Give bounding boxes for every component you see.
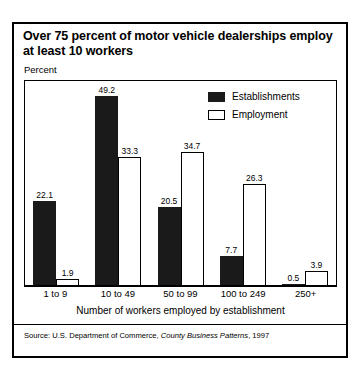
bar-rect [118, 157, 141, 286]
bar-group: 22.11.9 [25, 81, 87, 286]
chart-legend: Establishments Employment [208, 89, 326, 125]
bar-group: 49.233.3 [87, 81, 149, 286]
bar-employment: 34.7 [181, 81, 204, 286]
bar-value-label: 3.9 [310, 260, 322, 270]
source-note: Source: U.S. Department of Commerce, Cou… [24, 331, 340, 341]
bar-rect [33, 201, 56, 286]
bar-employment: 33.3 [118, 81, 141, 286]
x-tick-label: 100 to 249 [212, 288, 275, 299]
filled-square-icon [208, 92, 225, 102]
bar-establishments: 49.2 [95, 81, 118, 286]
x-axis-tick-labels: 1 to 910 to 4950 to 99100 to 249250+ [24, 288, 337, 299]
y-axis-label: Percent [24, 64, 57, 75]
plot-inner: 22.11.949.233.320.534.77.726.30.53.9 Est… [25, 81, 336, 286]
legend-label-employment: Employment [232, 109, 288, 120]
bar-establishments: 20.5 [158, 81, 181, 286]
bar-establishments: 22.1 [33, 81, 56, 286]
legend-label-establishments: Establishments [232, 91, 300, 102]
figure-container: Over 75 percent of motor vehicle dealers… [12, 22, 348, 358]
source-prefix: Source: U.S. Department of Commerce, [24, 331, 159, 340]
source-publication: County Business Patterns [161, 331, 248, 340]
chart-title: Over 75 percent of motor vehicle dealers… [23, 29, 341, 59]
axis-baseline [25, 285, 336, 286]
bar-rect [220, 256, 243, 286]
x-tick-label: 50 to 99 [149, 288, 212, 299]
plot-area: 22.11.949.233.320.534.77.726.30.53.9 Est… [24, 80, 337, 287]
bar-value-label: 49.2 [99, 85, 116, 95]
bar-rect [305, 271, 328, 286]
x-tick-label: 1 to 9 [24, 288, 87, 299]
x-axis-title: Number of workers employed by establishm… [24, 305, 337, 316]
bar-value-label: 33.3 [122, 146, 139, 156]
bar-employment: 1.9 [56, 81, 79, 286]
bar-rect [181, 152, 204, 286]
source-year: , 1997 [248, 331, 269, 340]
bar-rect [158, 207, 181, 286]
legend-item-employment: Employment [208, 107, 326, 122]
bar-value-label: 7.7 [225, 245, 237, 255]
bar-value-label: 0.5 [287, 273, 299, 283]
hollow-square-icon [208, 110, 225, 120]
legend-item-establishments: Establishments [208, 89, 326, 104]
bar-value-label: 22.1 [36, 190, 53, 200]
bar-value-label: 26.3 [246, 173, 263, 183]
bar-value-label: 1.9 [62, 268, 74, 278]
bar-value-label: 20.5 [161, 196, 178, 206]
x-tick-label: 10 to 49 [87, 288, 150, 299]
bar-rect [243, 184, 266, 286]
bar-group: 20.534.7 [149, 81, 211, 286]
x-tick-label: 250+ [274, 288, 337, 299]
bar-value-label: 34.7 [184, 141, 201, 151]
bar-rect [95, 96, 118, 286]
source-divider [14, 324, 346, 325]
